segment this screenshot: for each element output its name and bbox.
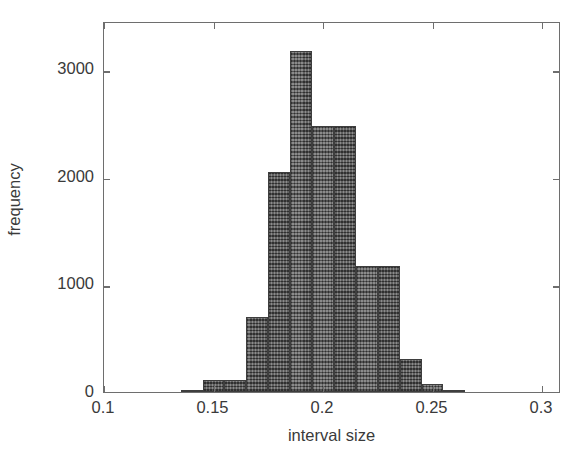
x-axis-title: interval size <box>103 426 560 445</box>
histogram-figure: 0100020003000 0.10.150.20.250.3 interval… <box>0 0 588 458</box>
y-axis-tick-labels: 0100020003000 <box>0 0 588 458</box>
y-axis-title: frequency <box>5 120 24 280</box>
x-axis-tick-label: 0.25 <box>415 398 447 417</box>
x-axis-tick-label: 0.3 <box>530 398 553 417</box>
x-axis-tick-label: 0.1 <box>92 398 115 417</box>
y-axis-tick-label: 3000 <box>0 59 94 78</box>
x-axis-tick-label: 0.15 <box>196 398 228 417</box>
x-axis-tick-label: 0.2 <box>311 398 334 417</box>
y-axis-tick-label: 0 <box>0 382 94 401</box>
